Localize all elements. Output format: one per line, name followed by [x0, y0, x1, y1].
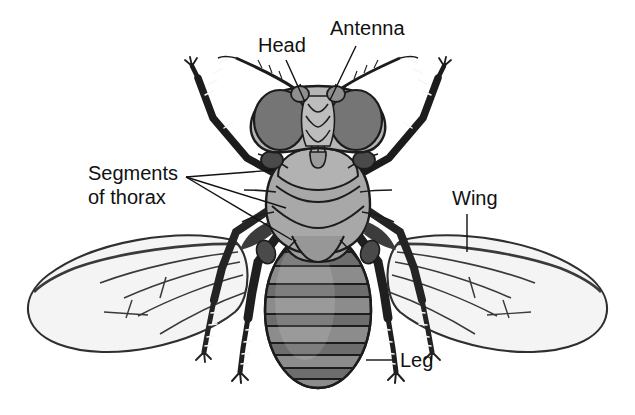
head [218, 57, 418, 169]
fly-anatomy-figure: Head Antenna Segments of thorax Wing Leg [0, 0, 635, 415]
fly-illustration: Head Antenna Segments of thorax Wing Leg [0, 0, 635, 415]
label-wing: Wing [452, 187, 498, 209]
label-antenna: Antenna [330, 17, 405, 39]
leader-segments-1 [186, 170, 274, 177]
label-leg: Leg [400, 349, 433, 371]
proboscis [310, 152, 326, 168]
label-segments-line1: Segments [88, 162, 178, 184]
shoulder-right [353, 151, 375, 169]
label-head: Head [258, 34, 306, 56]
antenna [218, 57, 418, 89]
shoulder-left [261, 151, 283, 169]
face [302, 96, 335, 146]
label-segments-line2: of thorax [88, 186, 166, 208]
